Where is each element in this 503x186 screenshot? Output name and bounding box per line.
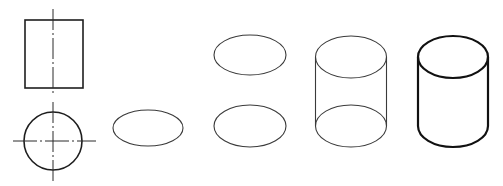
step-1-orthographic-views bbox=[13, 9, 96, 182]
top-ellipse bbox=[214, 35, 286, 75]
step-4-thin-cylinder bbox=[316, 36, 387, 147]
step-2-bottom-ellipse bbox=[113, 110, 183, 146]
step-3-two-ellipses bbox=[214, 35, 286, 147]
step-5-finished-cylinder bbox=[418, 36, 488, 147]
bottom-ellipse bbox=[113, 110, 183, 146]
front-view-rectangle bbox=[25, 20, 83, 88]
top-ellipse bbox=[316, 36, 387, 78]
top-ellipse bbox=[418, 36, 488, 78]
cylinder-construction-diagram bbox=[0, 0, 503, 186]
visible-bottom-arc bbox=[418, 126, 488, 147]
bottom-ellipse bbox=[214, 105, 286, 147]
bottom-ellipse bbox=[316, 105, 387, 147]
